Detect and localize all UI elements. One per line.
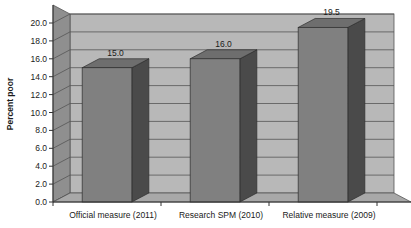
value-tick-label: 10.0 — [30, 108, 47, 118]
value-tick-label: 8.0 — [35, 125, 47, 135]
value-tick-label: 6.0 — [35, 143, 47, 153]
category-labels: Official measure (2011)Research SPM (201… — [69, 210, 375, 220]
value-tick-label: 18.0 — [30, 36, 47, 46]
value-tick-label: 20.0 — [30, 18, 47, 28]
value-tick-label: 0.0 — [35, 197, 47, 207]
bar-front-face — [82, 68, 132, 202]
category-label: Official measure (2011) — [69, 210, 157, 220]
bar-front-face — [298, 27, 348, 202]
category-label: Relative measure (2009) — [282, 210, 375, 220]
value-tick-label: 2.0 — [35, 179, 47, 189]
bar-column — [298, 18, 365, 202]
value-tick-label: 4.0 — [35, 161, 47, 171]
value-tick-label: 14.0 — [30, 72, 47, 82]
bar-front-face — [190, 59, 240, 202]
bar-side-face — [132, 59, 149, 202]
data-label: 19.5 — [323, 7, 340, 17]
bar-column — [82, 59, 149, 202]
data-label: 15.0 — [107, 48, 124, 58]
plot-left-wall — [53, 5, 70, 202]
value-tick-label: 16.0 — [30, 54, 47, 64]
value-tick-label: 12.0 — [30, 90, 47, 100]
bar-column — [190, 50, 257, 202]
bar-side-face — [348, 18, 365, 202]
bar-side-face — [240, 50, 257, 202]
category-label: Research SPM (2010) — [179, 210, 263, 220]
bar-chart: 0.02.04.06.08.010.012.014.016.018.020.0 … — [0, 0, 411, 228]
data-label: 16.0 — [215, 39, 232, 49]
chart-canvas: 0.02.04.06.08.010.012.014.016.018.020.0 … — [0, 0, 411, 228]
y-axis-title: Percent poor — [5, 77, 15, 130]
